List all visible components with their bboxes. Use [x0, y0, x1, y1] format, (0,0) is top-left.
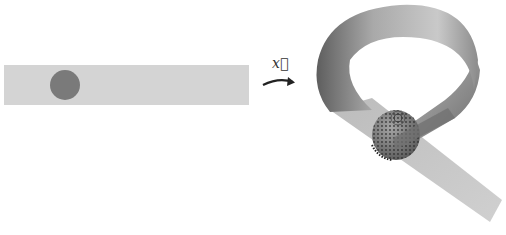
ribbon	[317, 5, 503, 222]
figure-canvas	[0, 0, 506, 235]
mapping-arrow-icon	[263, 77, 295, 86]
flat-strip	[4, 65, 249, 105]
mapping-label: x⃗	[272, 55, 288, 71]
disk	[50, 70, 80, 100]
